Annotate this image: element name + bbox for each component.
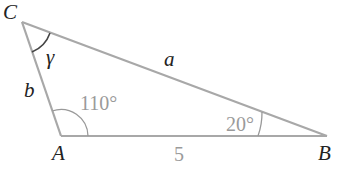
angle-b-label: 20°: [226, 113, 254, 135]
vertex-c-label: C: [3, 0, 18, 24]
side-b-label: b: [24, 78, 35, 102]
side-c-label: 5: [174, 143, 184, 165]
triangle-svg: C A B a b 5 γ 110° 20°: [0, 0, 344, 169]
side-a-line: [22, 22, 327, 136]
angle-gamma-label: γ: [46, 45, 55, 69]
vertex-b-label: B: [318, 141, 331, 165]
triangle-diagram: C A B a b 5 γ 110° 20°: [0, 0, 344, 169]
vertex-a-label: A: [50, 141, 65, 165]
angle-b-arc: [258, 112, 262, 136]
angle-a-label: 110°: [80, 92, 117, 114]
side-a-label: a: [164, 47, 175, 71]
